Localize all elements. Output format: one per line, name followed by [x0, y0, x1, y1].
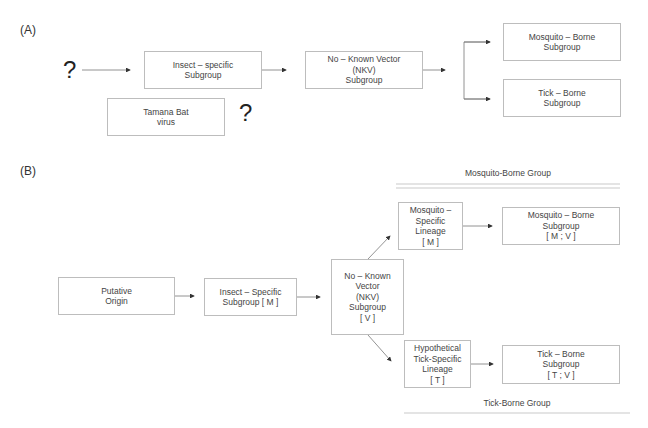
arrow-nkv-to-mosq-lineage — [368, 236, 390, 259]
box-tamana-bat-virus: Tamana Bat virus — [107, 98, 225, 136]
tick-borne-group-label: Tick-Borne Group — [404, 398, 630, 408]
panel-a-label: (A) — [20, 23, 36, 37]
box-nkv-b: No – Known Vector (NKV) Subgroup [ V ] — [331, 259, 404, 335]
box-mosquito-borne-a: Mosquito – Borne Subgroup — [503, 23, 621, 61]
box-mosquito-borne-b: Mosquito – Borne Subgroup [ M ; V ] — [502, 207, 620, 245]
bracket-split — [464, 42, 490, 99]
mosquito-borne-group-label: Mosquito-Borne Group — [396, 168, 620, 178]
arrow-nkv-to-tick-lineage — [368, 335, 391, 361]
unknown-origin-mark: ? — [63, 56, 76, 84]
box-mosquito-specific-lineage: Mosquito – Specific Lineage [ M ] — [398, 202, 463, 250]
box-putative-origin: Putative Origin — [58, 277, 175, 315]
box-tick-borne-b: Tick – Borne Subgroup [ T ; V ] — [502, 345, 620, 384]
box-nkv-a: No – Known Vector (NKV) Subgroup — [305, 51, 423, 89]
box-insect-specific-b: Insect – Specific Subgroup [ M ] — [204, 278, 297, 316]
box-tick-specific-lineage: Hypothetical Tick-Specific Lineage [ T ] — [404, 340, 471, 388]
box-tick-borne-a: Tick – Borne Subgroup — [503, 79, 621, 117]
box-insect-specific-a: Insect – specific Subgroup — [144, 51, 262, 89]
unknown-link-mark: ? — [239, 99, 252, 127]
panel-b-label: (B) — [20, 164, 36, 178]
